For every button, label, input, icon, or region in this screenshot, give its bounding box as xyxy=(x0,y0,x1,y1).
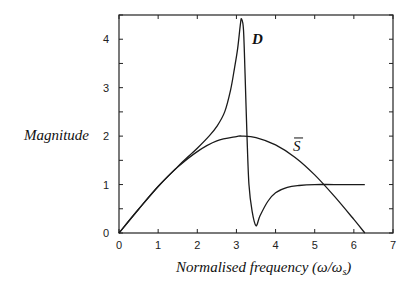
y-tick-label: 0 xyxy=(103,227,109,239)
x-tick-label: 7 xyxy=(390,239,396,251)
plot-frame xyxy=(119,15,393,233)
x-axis-title: Normalised frequency (ω/ωs) xyxy=(175,259,351,277)
x-axis-title-close: ) xyxy=(345,259,351,276)
x-axis-title-math: (ω/ω xyxy=(312,259,342,276)
data-series xyxy=(119,19,365,233)
y-tick-label: 2 xyxy=(103,130,109,142)
x-axis-title-main: Normalised frequency xyxy=(175,259,312,275)
series-line-d xyxy=(119,19,365,233)
x-tick-label: 5 xyxy=(312,239,318,251)
axis-ticks xyxy=(119,15,393,233)
series-label-s-bar: S xyxy=(293,138,303,154)
x-tick-label: 3 xyxy=(233,239,239,251)
x-tick-label: 0 xyxy=(116,239,122,251)
magnitude-chart: 01234567 01234 D S Magnitude Normalised … xyxy=(0,0,414,292)
svg-text:S: S xyxy=(293,138,301,154)
y-tick-label: 1 xyxy=(103,179,109,191)
x-tick-label: 1 xyxy=(155,239,161,251)
x-tick-label: 4 xyxy=(273,239,279,251)
series-label-d: D xyxy=(251,31,263,47)
y-axis-title: Magnitude xyxy=(23,127,89,143)
y-tick-label: 4 xyxy=(103,33,109,45)
x-tick-label: 2 xyxy=(194,239,200,251)
y-tick-label: 3 xyxy=(103,82,109,94)
x-tick-labels: 01234567 xyxy=(116,239,396,251)
y-tick-labels: 01234 xyxy=(103,33,109,239)
x-tick-label: 6 xyxy=(351,239,357,251)
